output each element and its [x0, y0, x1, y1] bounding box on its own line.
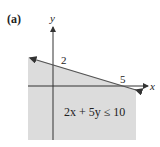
- figure-label: (a): [7, 13, 21, 25]
- shaded-region: [28, 57, 136, 140]
- y-intercept-label: 2: [61, 55, 67, 66]
- y-axis-label: y: [50, 13, 55, 24]
- x-intercept-label: 5: [120, 74, 126, 85]
- graph: [0, 0, 160, 147]
- x-axis-label: x: [150, 81, 155, 92]
- inequality-label: 2x + 5y ≤ 10: [64, 106, 125, 118]
